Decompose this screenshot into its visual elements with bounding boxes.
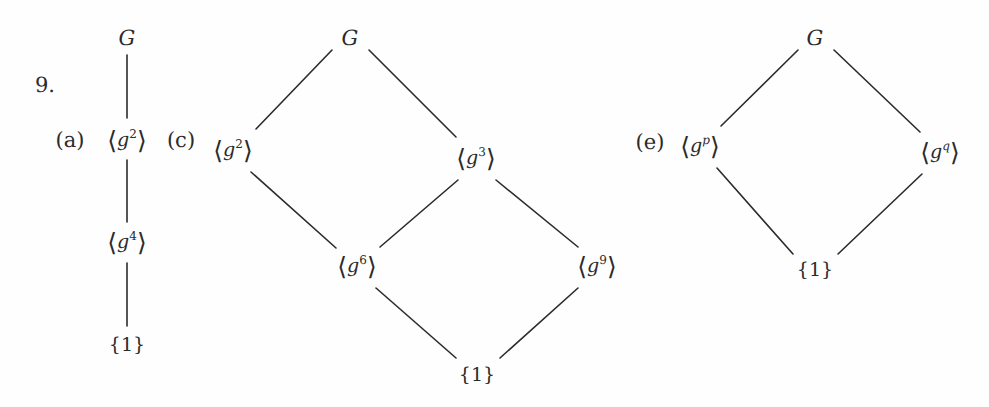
lattice-node-e-top: G: [807, 28, 824, 49]
lattice-node-a-top: G: [119, 28, 136, 49]
lattice-node-e-one: {1}: [797, 261, 833, 280]
lattice-node-c-top: G: [342, 28, 359, 49]
lattice-edge: [256, 50, 332, 129]
generator-exponent: 6: [359, 253, 367, 267]
lattice-node-e-gq: ⟨gq⟩: [920, 140, 959, 165]
part-label-a: (a): [56, 130, 85, 151]
lattice-node-a-g2: ⟨g2⟩: [107, 128, 146, 153]
textbook-figure-page: 9. (a) (c) (e) G⟨g2⟩⟨g4⟩{1}G⟨g2⟩⟨g3⟩⟨g6⟩…: [0, 0, 989, 407]
lattice-edge: [251, 172, 336, 248]
angle-bracket-close-icon: ⟩: [137, 126, 147, 155]
part-label-c: (c): [167, 130, 195, 151]
lattice-edge: [369, 50, 456, 137]
lattice-edge: [717, 168, 793, 254]
exercise-number: 9.: [35, 75, 55, 96]
angle-bracket-open-icon: ⟨: [456, 144, 466, 173]
angle-bracket-open-icon: ⟨: [920, 138, 930, 167]
lattice-edges-layer: [0, 0, 989, 407]
lattice-edge: [496, 180, 578, 247]
angle-bracket-close-icon: ⟩: [486, 144, 496, 173]
angle-bracket-open-icon: ⟨: [337, 252, 347, 281]
generator-exponent: 2: [129, 127, 137, 141]
node-label: {1}: [109, 334, 145, 356]
angle-bracket-close-icon: ⟩: [367, 252, 377, 281]
angle-bracket-open-icon: ⟨: [107, 126, 117, 155]
node-label: {1}: [797, 259, 833, 281]
angle-bracket-close-icon: ⟩: [137, 228, 147, 257]
lattice-node-c-g6: ⟨g6⟩: [337, 254, 376, 279]
lattice-edge: [500, 288, 578, 358]
angle-bracket-close-icon: ⟩: [607, 252, 617, 281]
part-label-e: (e): [636, 132, 665, 153]
lattice-edge: [834, 50, 920, 132]
generator-symbol: g: [223, 139, 235, 161]
lattice-node-c-one: {1}: [459, 366, 495, 385]
lattice-edge: [380, 180, 458, 247]
angle-bracket-open-icon: ⟨: [107, 228, 117, 257]
generator-symbol: g: [117, 129, 129, 151]
generator-exponent: q: [942, 139, 950, 153]
lattice-node-e-gp: ⟨gp⟩: [680, 134, 719, 159]
generator-exponent: p: [702, 133, 710, 147]
generator-exponent: 4: [129, 229, 137, 243]
node-label: G: [342, 26, 359, 50]
angle-bracket-close-icon: ⟩: [243, 136, 253, 165]
generator-symbol: g: [690, 135, 702, 157]
angle-bracket-close-icon: ⟩: [710, 132, 720, 161]
generator-symbol: g: [117, 231, 129, 253]
angle-bracket-open-icon: ⟨: [213, 136, 223, 165]
angle-bracket-close-icon: ⟩: [950, 138, 960, 167]
generator-exponent: 2: [235, 137, 243, 151]
angle-bracket-open-icon: ⟨: [680, 132, 690, 161]
lattice-node-c-g3: ⟨g3⟩: [456, 146, 495, 171]
lattice-edge: [838, 174, 922, 254]
angle-bracket-open-icon: ⟨: [577, 252, 587, 281]
node-label: {1}: [459, 364, 495, 386]
lattice-edge: [721, 50, 798, 126]
generator-symbol: g: [347, 255, 359, 277]
node-label: G: [807, 26, 824, 50]
generator-exponent: 3: [478, 145, 486, 159]
lattice-edge: [376, 288, 456, 358]
lattice-node-a-one: {1}: [109, 336, 145, 355]
generator-exponent: 9: [599, 253, 607, 267]
lattice-node-a-g4: ⟨g4⟩: [107, 230, 146, 255]
lattice-node-c-g2: ⟨g2⟩: [213, 138, 252, 163]
generator-symbol: g: [466, 147, 478, 169]
generator-symbol: g: [587, 255, 599, 277]
lattice-node-c-g9: ⟨g9⟩: [577, 254, 616, 279]
generator-symbol: g: [930, 141, 942, 163]
node-label: G: [119, 26, 136, 50]
